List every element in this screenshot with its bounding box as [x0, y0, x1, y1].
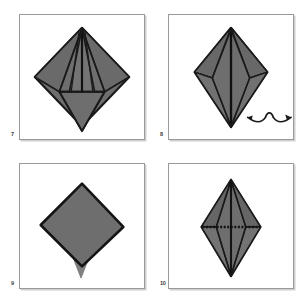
figure-step-10-shape [201, 180, 260, 276]
panel-step-8 [168, 14, 294, 140]
origami-figure-step-8 [169, 15, 293, 139]
step-number-7: 7 [11, 132, 14, 138]
origami-figure-step-7 [20, 15, 144, 139]
figure-step-9-shape [41, 184, 124, 278]
figure-step-7-shape [35, 28, 129, 131]
panel-step-9 [19, 163, 145, 289]
figure-step-8-shape [195, 28, 268, 127]
panel-step-10 [168, 163, 294, 289]
turn-over-right-arrowhead [285, 114, 291, 120]
step-number-8: 8 [160, 132, 163, 138]
step-number-10: 10 [160, 281, 166, 287]
diagram-sheet: 7 8 9 10 [0, 0, 299, 299]
turn-over-arrow-icon [248, 113, 291, 122]
lower-flap-triangle [59, 92, 104, 131]
panel-step-7 [19, 14, 145, 140]
turn-over-loop [265, 113, 273, 117]
step-number-9: 9 [11, 281, 14, 287]
origami-figure-step-10 [169, 164, 293, 288]
square-diamond [41, 184, 124, 267]
origami-figure-step-9 [20, 164, 144, 288]
